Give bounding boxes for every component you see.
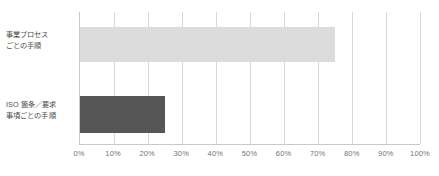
gridline-80% (352, 12, 353, 144)
category-label-business-process: 事業プロセス ごとの手順 (6, 30, 78, 51)
x-tick-70%: 70% (310, 149, 326, 158)
x-tick-20%: 20% (139, 149, 155, 158)
x-axis-tick-labels: 0%10%20%30%40%50%60%70%80%90%100% (79, 149, 420, 163)
bar-iso-clause (80, 96, 165, 133)
x-tick-10%: 10% (105, 149, 121, 158)
bar-business-process (80, 27, 335, 62)
gridline-90% (386, 12, 387, 144)
category-label-iso-clause: ISO 箇条／要求 事項ごとの手順 (6, 100, 78, 121)
x-tick-80%: 80% (344, 149, 360, 158)
gridline-100% (420, 12, 421, 144)
x-tick-0%: 0% (73, 149, 84, 158)
horizontal-bar-chart: 事業プロセス ごとの手順 ISO 箇条／要求 事項ごとの手順 0%10%20%3… (0, 0, 439, 176)
x-tick-100%: 100% (410, 149, 430, 158)
x-tick-60%: 60% (276, 149, 292, 158)
plot-area (79, 12, 420, 145)
x-tick-90%: 90% (378, 149, 394, 158)
x-tick-40%: 40% (208, 149, 224, 158)
x-tick-50%: 50% (242, 149, 258, 158)
x-tick-30%: 30% (173, 149, 189, 158)
